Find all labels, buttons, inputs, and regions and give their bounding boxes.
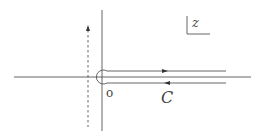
arrow-left-icon	[164, 81, 170, 85]
diagram-graphics	[0, 0, 263, 134]
origin-label: o	[106, 86, 113, 100]
arrow-up-icon	[86, 25, 90, 31]
plane-label: z	[192, 15, 199, 30]
contour-label: C	[161, 88, 173, 107]
contour-diagram: o C z	[0, 0, 263, 134]
arrow-right-icon	[162, 69, 168, 73]
